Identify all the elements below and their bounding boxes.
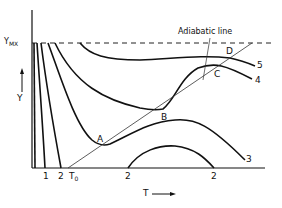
curve-2-mid-label: 2	[125, 172, 131, 181]
adiabatic-line	[68, 43, 252, 168]
point-c-label: C	[214, 70, 220, 79]
curve-5-label: 5	[257, 61, 263, 70]
y-arrow-head-icon	[20, 68, 24, 74]
curve-2-left-label: 2	[58, 172, 64, 181]
t-arrow-head-icon	[170, 192, 176, 196]
adiabatic-line-label: Adiabatic line	[178, 28, 232, 36]
y-axis-label: Y	[17, 94, 23, 103]
y-max-label: YMX	[4, 38, 18, 47]
curve-3	[48, 43, 245, 160]
curve-4-label: 4	[255, 76, 261, 85]
t0-label: T0	[69, 172, 78, 182]
t-axis-label: T	[143, 189, 149, 198]
curve-1-label: 1	[43, 172, 49, 181]
curve-2-arch	[128, 146, 214, 168]
point-a-label: A	[97, 135, 103, 144]
curve-4	[55, 43, 252, 110]
curve-2-right-label: 2	[211, 172, 217, 181]
point-b-label: B	[161, 113, 167, 122]
curve-steep-a	[34, 43, 35, 168]
point-d-label: D	[226, 47, 233, 56]
diagram-figure: YMX Y T Adiabatic line A B C D 1 2 T0 2 …	[0, 0, 282, 208]
curve-3-label: 3	[246, 155, 252, 164]
